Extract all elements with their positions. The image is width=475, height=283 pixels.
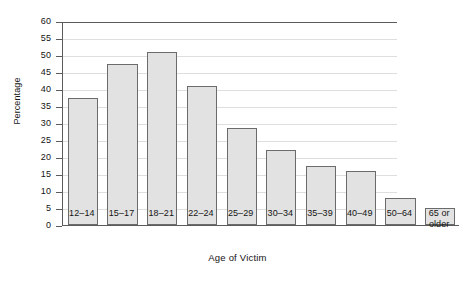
bar-chart-figure: Percentage 051015202530354045505560 12–1… [0,0,475,283]
y-tick-mark [56,22,62,23]
bar [68,98,98,226]
x-tick-label: 30–34 [261,208,301,219]
y-tick-mark [56,192,62,193]
x-tick-label: 12–14 [62,208,102,219]
x-tick-label-line: 18–21 [141,208,181,219]
x-tick-label-line: 65 or [419,208,459,219]
y-tick-mark [56,141,62,142]
y-tick-mark [56,73,62,74]
y-tick-label: 40 [1,84,51,94]
x-tick-label: 15–17 [102,208,142,219]
y-tick-label: 25 [1,135,51,145]
y-tick-label: 5 [1,203,51,213]
y-tick-label: 55 [1,33,51,43]
x-tick-label: 22–24 [181,208,221,219]
y-tick-mark [56,90,62,91]
y-tick-label: 30 [1,118,51,128]
x-tick-label-line: 35–39 [300,208,340,219]
bar [147,52,177,225]
bar [107,64,137,226]
y-tick-label: 45 [1,67,51,77]
y-tick-mark [56,124,62,125]
y-tick-mark [56,158,62,159]
x-tick-label: 25–29 [221,208,261,219]
x-tick-label-line: 15–17 [102,208,142,219]
bar-slot [346,22,376,225]
y-tick-label: 35 [1,101,51,111]
x-tick-label-line: older [419,219,459,230]
bar-slot [425,22,455,225]
y-tick-mark [56,226,62,227]
x-tick-label-line: 25–29 [221,208,261,219]
bar-slot [107,22,137,225]
bar-slot [266,22,296,225]
x-tick-label: 18–21 [141,208,181,219]
bar-slot [227,22,257,225]
x-axis-title: Age of Victim [0,252,475,263]
y-tick-label: 60 [1,16,51,26]
y-tick-label: 20 [1,152,51,162]
x-tick-label-line: 12–14 [62,208,102,219]
x-tick-label: 35–39 [300,208,340,219]
x-tick-label: 50–64 [380,208,420,219]
x-tick-label: 65 orolder [419,208,459,230]
x-tick-label-line: 30–34 [261,208,301,219]
y-tick-mark [56,107,62,108]
bar-slot [385,22,415,225]
bar-slot [68,22,98,225]
y-tick-label: 15 [1,169,51,179]
plot-area: 051015202530354045505560 [62,22,459,226]
y-tick-label: 0 [1,220,51,230]
x-tick-label-line: 40–49 [340,208,380,219]
y-tick-label: 10 [1,186,51,196]
y-gridline [63,226,397,227]
y-tick-mark [56,175,62,176]
bar-slot [187,22,217,225]
bar-slot [306,22,336,225]
y-tick-mark [56,39,62,40]
bars-layer [63,22,459,225]
y-tick-mark [56,56,62,57]
x-tick-label-line: 22–24 [181,208,221,219]
bar-slot [147,22,177,225]
x-tick-label: 40–49 [340,208,380,219]
bar [187,86,217,225]
y-tick-label: 50 [1,50,51,60]
x-tick-label-line: 50–64 [380,208,420,219]
